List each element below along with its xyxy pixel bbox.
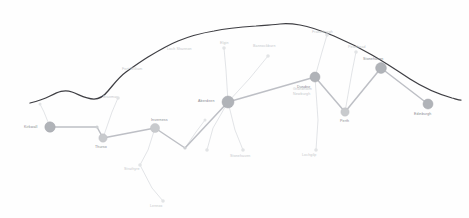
main-eastern-line[interactable]: [228, 68, 428, 112]
branch-north-mid[interactable]: [345, 52, 356, 112]
branch-hub-south-west[interactable]: [207, 102, 228, 150]
station-west-terminus[interactable]: Kirkwall: [24, 122, 55, 132]
marker-far-west[interactable]: [39, 103, 42, 106]
label-hill-area: Fort William: [122, 67, 142, 71]
label-peterhead: Peterhead: [348, 45, 366, 49]
minor-marker-layer: [39, 33, 358, 203]
marker-mid-connector[interactable]: [204, 119, 207, 122]
station-west-terminus-marker[interactable]: [45, 122, 55, 132]
station-central[interactable]: Inverness: [150, 118, 167, 133]
label-loch-area: Loch Shannon: [167, 47, 192, 51]
boundary-layer: [30, 24, 461, 103]
station-east-terminus-label: Edinburgh: [414, 112, 431, 116]
label-far-south: Lennox: [150, 204, 163, 208]
marker-north-mid[interactable]: [354, 50, 358, 54]
marker-east-south[interactable]: [314, 148, 318, 152]
main-western-line[interactable]: [50, 127, 103, 138]
branch-hub-south-east[interactable]: [228, 102, 243, 150]
station-south-bend-marker[interactable]: [341, 108, 349, 116]
marker-north-coast[interactable]: [266, 54, 270, 58]
station-central-hub[interactable]: Aberdeen: [198, 96, 234, 108]
branch-central-far-south[interactable]: [140, 165, 163, 201]
station-west-junction[interactable]: Thurso: [95, 134, 107, 149]
station-south-bend[interactable]: Perth: [340, 108, 349, 123]
station-north-east-marker[interactable]: [376, 63, 387, 74]
station-central-label: Inverness: [151, 118, 168, 122]
marker-far-south[interactable]: [161, 199, 165, 203]
station-central-marker[interactable]: [150, 123, 159, 132]
branch-west-upper[interactable]: [103, 98, 118, 138]
station-central-hub-marker[interactable]: [222, 96, 234, 108]
station-north-east[interactable]: Stonehaven: [363, 57, 386, 73]
station-south-bend-label: Perth: [340, 119, 349, 123]
station-node-layer[interactable]: KirkwallThursoInvernessAberdeenDundeePer…: [24, 57, 433, 149]
label-central-south: Strathyre: [124, 167, 140, 171]
vertex-valley: [183, 146, 186, 149]
station-north-east-label: Stonehaven: [363, 57, 383, 61]
marker-south-west[interactable]: [205, 148, 209, 152]
place-label-layer: Loch ShannonFort WilliamElginBannockburn…: [103, 30, 366, 208]
map-root: Loch ShannonFort WilliamElginBannockburn…: [0, 0, 469, 218]
marker-central-south[interactable]: [138, 163, 142, 167]
station-east-mid-marker[interactable]: [310, 72, 320, 82]
marker-west-upper[interactable]: [116, 96, 120, 100]
station-west-junction-marker[interactable]: [99, 134, 107, 142]
branch-hub-north-east[interactable]: [228, 56, 268, 102]
map-canvas[interactable]: Loch ShannonFort WilliamElginBannockburn…: [0, 0, 469, 218]
label-north-coast: Fraserburgh: [312, 30, 333, 34]
station-central-hub-label: Aberdeen: [198, 99, 215, 103]
label-south-west: Stonehaven: [230, 154, 250, 158]
marker-north-inland[interactable]: [222, 46, 226, 50]
label-south-east: Lochgilp: [302, 153, 316, 157]
label-bannockburn: Bannockburn: [253, 44, 276, 48]
branch-east-south[interactable]: [315, 77, 318, 150]
station-east-terminus[interactable]: Edinburgh: [414, 99, 433, 116]
branch-hub-north-west[interactable]: [224, 48, 228, 102]
marker-south-east[interactable]: [241, 148, 245, 152]
station-west-junction-label: Thurso: [95, 145, 107, 149]
station-east-terminus-marker[interactable]: [423, 99, 433, 109]
marker-north-spur[interactable]: [325, 33, 329, 37]
station-west-terminus-label: Kirkwall: [24, 125, 37, 129]
label-braemar: Braemar: [103, 95, 118, 99]
branch-north-spur[interactable]: [315, 35, 327, 77]
vertex-west-corner: [95, 125, 98, 128]
branch-layer: [40, 35, 356, 201]
station-east-mid-label: Dundee: [297, 85, 310, 89]
branch-central-south[interactable]: [140, 128, 155, 165]
label-upper-mid: Elgin: [220, 41, 229, 45]
label-grand-sub2: Newburgh: [293, 92, 310, 96]
coastline-path: [30, 24, 461, 103]
